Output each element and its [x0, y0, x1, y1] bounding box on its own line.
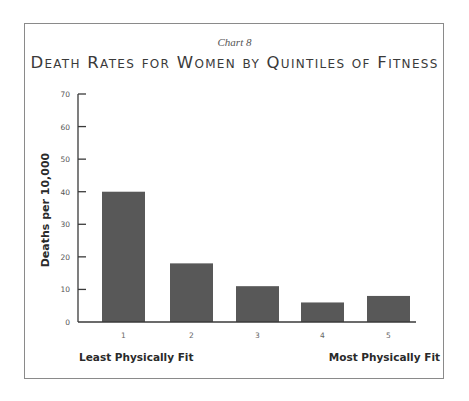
- y-tick-label: 40: [60, 188, 70, 197]
- x-tick-label: 3: [255, 331, 260, 340]
- x-annotation-most-fit: Most Physically Fit: [329, 351, 440, 363]
- bar-quintile-3: [236, 286, 279, 322]
- x-tick-label: 1: [121, 331, 126, 340]
- y-tick-label: 30: [60, 220, 70, 229]
- bars: [102, 192, 410, 322]
- x-tick-label: 5: [386, 331, 391, 340]
- x-annotation-least-fit: Least Physically Fit: [79, 351, 194, 363]
- y-tick-label: 70: [60, 90, 70, 99]
- y-tick-label: 0: [65, 318, 70, 327]
- bar-quintile-4: [301, 302, 344, 322]
- bar-quintile-5: [367, 296, 410, 322]
- bar-quintile-2: [170, 263, 213, 322]
- y-axis: 010203040506070: [60, 90, 86, 327]
- y-tick-label: 10: [60, 285, 70, 294]
- bar-quintile-1: [102, 192, 145, 322]
- plot-area: 010203040506070 12345: [0, 0, 469, 401]
- y-tick-label: 20: [60, 253, 70, 262]
- y-tick-label: 50: [60, 155, 70, 164]
- x-axis: 12345: [78, 322, 416, 340]
- x-tick-label: 2: [189, 331, 194, 340]
- y-tick-label: 60: [60, 123, 70, 132]
- x-tick-label: 4: [320, 331, 325, 340]
